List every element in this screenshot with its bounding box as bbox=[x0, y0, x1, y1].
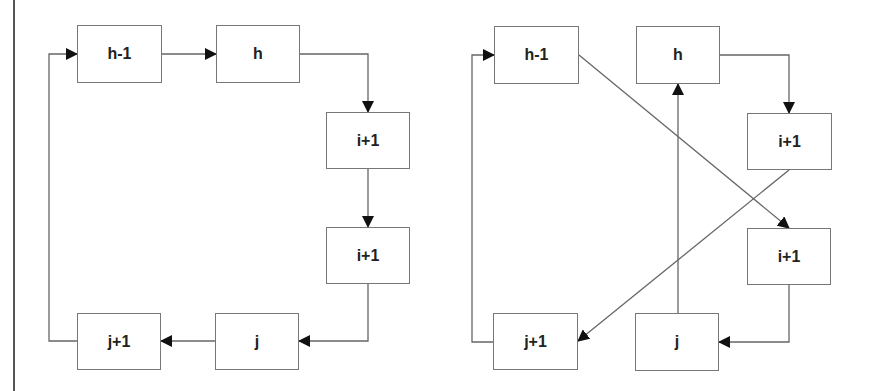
node-reordered-j+1: j+1 bbox=[493, 313, 578, 370]
edge-i+1b-to-j bbox=[299, 284, 368, 341]
node-sequential-order-j: j bbox=[215, 313, 299, 370]
node-reordered-h-1: h-1 bbox=[494, 26, 579, 84]
edge-j+1-to-h-1 bbox=[472, 55, 494, 342]
node-sequential-order-j+1: j+1 bbox=[77, 313, 161, 370]
node-sequential-order-h: h bbox=[216, 25, 300, 83]
edge-i+1b-to-j bbox=[719, 285, 789, 342]
node-sequential-order-i+1a: i+1 bbox=[326, 112, 410, 169]
node-sequential-order-i+1b: i+1 bbox=[326, 227, 410, 284]
node-sequential-order-h-1: h-1 bbox=[77, 25, 162, 83]
edge-h-to-i+1a bbox=[300, 54, 368, 112]
node-reordered-j: j bbox=[635, 313, 719, 371]
edge-j+1-to-h-1 bbox=[49, 54, 77, 341]
edge-h-to-i+1a bbox=[720, 55, 789, 113]
node-reordered-h: h bbox=[636, 26, 720, 84]
node-reordered-i+1a: i+1 bbox=[747, 113, 832, 170]
node-reordered-i+1b: i+1 bbox=[747, 228, 831, 285]
